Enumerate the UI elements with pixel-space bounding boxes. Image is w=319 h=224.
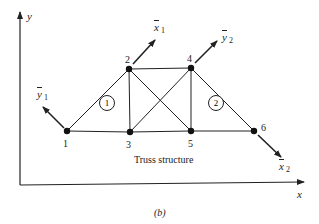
arrow-xbar1 [133,40,155,64]
node-5 [188,128,194,134]
arrow-ybar1 [43,107,64,128]
x-axis-label: x [297,189,302,200]
member-1-3 [67,131,130,132]
node-label-5: 5 [188,139,193,149]
figure-label: (b) [154,208,166,218]
truss-caption: Truss structure [134,155,193,165]
node-1 [64,128,70,134]
truss-figure: 1 2 3 4 5 6 1 2 y x x1 y1 y2 x2 Truss st… [0,0,319,224]
element-2-badge: 2 [208,95,224,111]
xbar1-label: x1 [154,22,165,35]
node-2 [126,66,132,72]
member-1-2 [67,69,129,131]
y-axis-label: y [27,11,32,22]
member-2-4 [129,68,191,69]
xbar2-label: x2 [279,161,290,174]
arrow-xbar2 [258,135,281,157]
node-label-2: 2 [125,55,130,65]
node-6 [251,128,257,134]
ybar1-label: y1 [37,89,48,102]
node-label-6: 6 [261,123,266,133]
node-4 [188,65,194,71]
arrow-ybar2 [195,41,217,63]
x-axis [20,182,304,185]
truss-members [67,68,254,132]
element-1-badge: 1 [99,95,115,111]
node-label-1: 1 [63,139,68,149]
member-2-3 [129,69,130,132]
node-label-3: 3 [126,140,131,150]
node-3 [127,129,133,135]
ybar2-label: y2 [222,32,233,45]
node-label-4: 4 [187,54,192,64]
member-3-5 [130,131,191,132]
